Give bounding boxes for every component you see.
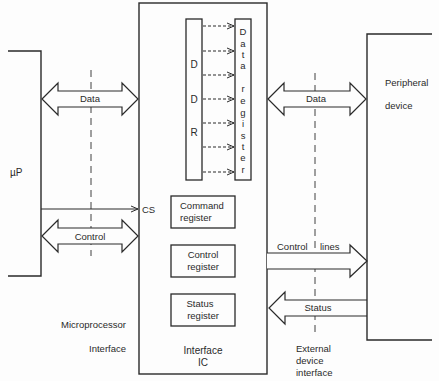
caption-line: interface <box>296 367 332 378</box>
status-arrow: Status <box>269 292 367 324</box>
data-register-block: D a t a r e g i s t e r <box>235 19 251 180</box>
data-register-letter: t <box>242 141 245 152</box>
caption-line: device <box>296 355 323 366</box>
control-register-label: register <box>187 261 219 272</box>
microprocessor-interface-caption: Microprocessor Interface <box>61 319 126 354</box>
data-register-letter: e <box>240 95 245 106</box>
cs-signal: CS <box>41 204 155 215</box>
data-register-letter: a <box>240 38 246 49</box>
data-register-letter: r <box>241 83 244 94</box>
data-register-letter: r <box>241 164 244 175</box>
caption-line: Interface <box>89 343 126 354</box>
external-device-interface-caption: External device interface <box>296 343 332 378</box>
data-bus-left-label: Data <box>80 93 101 104</box>
command-register-block: Command register <box>171 196 235 228</box>
ddr-letter: D <box>190 59 197 70</box>
control-lines-arrow: Control lines <box>267 241 367 277</box>
status-register-label: register <box>187 310 219 321</box>
data-register-letter: e <box>240 152 245 163</box>
control-bus-left-arrow: Control <box>42 220 138 252</box>
control-bus-left-label: Control <box>75 231 106 242</box>
status-register-block: Status register <box>171 294 235 326</box>
caption-line: Microprocessor <box>61 319 126 330</box>
data-register-letter: s <box>241 130 246 141</box>
peripheral-label: device <box>385 100 412 111</box>
interface-block-diagram: µP Interface IC D D R D a t a r e g i s … <box>0 0 439 381</box>
caption-line: External <box>296 343 331 354</box>
ddr-to-data-register-arrows <box>203 26 234 172</box>
microprocessor-label: µP <box>10 167 23 178</box>
interface-ic-label-2: IC <box>198 357 208 368</box>
status-register-label: Status <box>187 298 214 309</box>
ddr-block: D D R <box>186 19 202 180</box>
control-register-block: Control register <box>171 245 235 277</box>
data-register-letter: g <box>240 107 245 118</box>
ddr-letter: D <box>190 94 197 105</box>
control-register-label: Control <box>188 249 219 260</box>
peripheral-device-block: Peripheral device <box>367 34 432 340</box>
control-lines-label: lines <box>320 241 340 252</box>
data-register-letter: a <box>240 60 246 71</box>
cs-label: CS <box>142 204 155 215</box>
data-bus-right-arrow: Data <box>268 83 366 115</box>
status-label: Status <box>305 302 332 313</box>
microprocessor-block: µP <box>8 51 41 276</box>
data-register-letter: i <box>242 118 244 129</box>
data-bus-left-arrow: Data <box>42 83 138 115</box>
peripheral-label: Peripheral <box>385 77 428 88</box>
data-bus-right-label: Data <box>306 93 327 104</box>
command-register-label: register <box>180 212 212 223</box>
data-register-letter: D <box>240 26 247 37</box>
interface-ic-label-1: Interface <box>184 345 223 356</box>
data-register-letter: t <box>242 49 245 60</box>
command-register-label: Command <box>180 200 224 211</box>
ddr-letter: R <box>190 127 197 138</box>
control-lines-label: Control <box>277 241 308 252</box>
